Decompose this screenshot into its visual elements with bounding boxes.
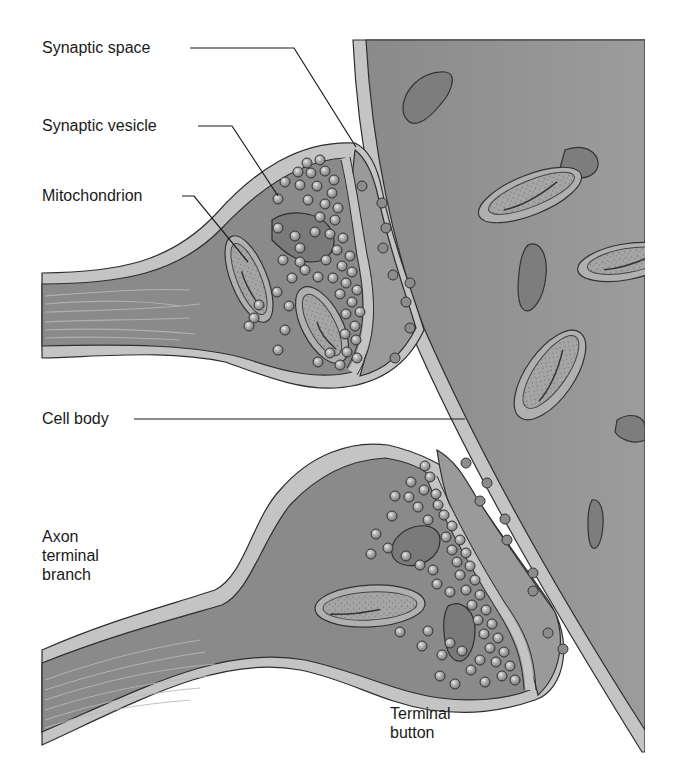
- label-synaptic-vesicle: Synaptic vesicle: [42, 116, 157, 135]
- label-cell-body: Cell body: [42, 409, 109, 428]
- synapse-diagram: Synaptic space Synaptic vesicle Mitochon…: [0, 0, 678, 782]
- label-terminal-button: Terminal button: [390, 704, 460, 742]
- label-mitochondrion: Mitochondrion: [42, 186, 143, 205]
- label-axon-terminal-branch: Axon terminal branch: [42, 527, 112, 584]
- top-axon-terminal: [42, 143, 424, 388]
- leader-synaptic-space: [190, 48, 356, 147]
- label-synaptic-space: Synaptic space: [42, 38, 151, 57]
